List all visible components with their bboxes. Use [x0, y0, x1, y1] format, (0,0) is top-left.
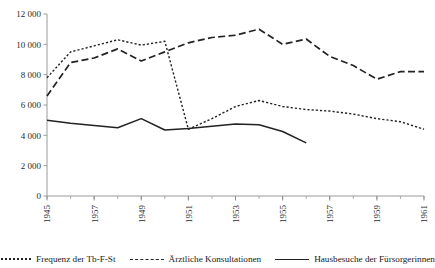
- legend-item-label: Frequenz der Tb-F-St: [36, 254, 115, 264]
- legend-item-label: Hausbesuche der Fürsorgerinnen: [314, 254, 435, 264]
- x-tick-label: 1959: [372, 205, 382, 224]
- legend-swatch-solid-icon: [275, 259, 309, 260]
- legend-item-label: Ärztliche Konsultationen: [169, 254, 262, 264]
- series-line-1: [47, 40, 424, 129]
- y-tick-label: 8 000: [21, 70, 42, 80]
- y-tick-label: 12 000: [16, 9, 41, 19]
- x-tick-label: 1949: [137, 205, 147, 224]
- x-tick-label: 1951: [184, 205, 194, 223]
- y-tick-label: 6 000: [21, 100, 42, 110]
- x-tick-label: 1957: [325, 205, 335, 224]
- data-series-group: [47, 29, 424, 143]
- legend-swatch-dashed-icon: [130, 259, 164, 260]
- x-tick-label: 1957: [90, 205, 100, 224]
- y-tick-label: 0: [37, 191, 42, 201]
- x-tick-label: 1953: [231, 205, 241, 224]
- legend-swatch-dotted-icon: [0, 258, 31, 260]
- legend-item[interactable]: Hausbesuche der Fürsorgerinnen: [275, 254, 435, 264]
- series-line-2: [47, 29, 424, 96]
- legend-item[interactable]: Ärztliche Konsultationen: [130, 254, 262, 264]
- x-axis: 194519571949195119531955195719591961: [42, 196, 429, 223]
- y-tick-label: 2 000: [21, 161, 42, 171]
- x-tick-label: 1945: [42, 205, 52, 224]
- chart-legend: Frequenz der Tb-F-StÄrztliche Konsultati…: [0, 254, 432, 264]
- x-tick-label: 1961: [419, 205, 429, 223]
- x-tick-label: 1955: [278, 205, 288, 224]
- series-line-3: [47, 119, 306, 143]
- y-tick-label: 4 000: [21, 131, 42, 141]
- y-tick-label: 10 000: [16, 40, 41, 50]
- y-axis: 02 0004 0006 0008 00010 00012 000: [16, 9, 47, 201]
- legend-item[interactable]: Frequenz der Tb-F-St: [0, 254, 116, 264]
- chart-canvas: 02 0004 0006 0008 00010 00012 000 194519…: [0, 0, 432, 244]
